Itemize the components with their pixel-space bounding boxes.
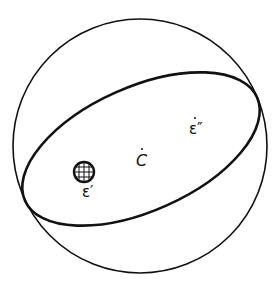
orbit-ellipse — [0, 41, 279, 258]
epsilon-double-prime-dot — [194, 117, 196, 119]
epsilon-double-prime-label: ε″ — [189, 122, 203, 137]
center-dot — [141, 148, 143, 150]
epsilon-prime-label: ε′ — [82, 185, 94, 200]
sphere-outline — [13, 19, 267, 273]
globe-icon — [74, 162, 94, 182]
center-label: C — [136, 153, 147, 169]
diagram-canvas — [0, 0, 279, 286]
